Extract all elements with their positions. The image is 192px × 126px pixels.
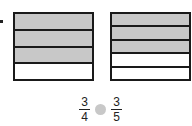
shaded-part [15, 48, 92, 65]
fraction-right: 3 5 [111, 96, 122, 123]
comparison-symbol-blank[interactable] [95, 104, 106, 115]
numerator: 3 [113, 96, 120, 108]
fraction-left: 3 4 [79, 96, 90, 123]
shaded-part [112, 41, 189, 54]
unshaded-part [15, 64, 92, 79]
bullet-dot [0, 20, 3, 23]
numerator: 3 [81, 96, 88, 108]
shaded-part [15, 14, 92, 31]
shaded-part [112, 14, 189, 27]
fraction-model-right [110, 12, 191, 81]
comparison-expression: 3 4 3 5 [79, 96, 122, 123]
shaded-part [112, 27, 189, 40]
denominator: 5 [113, 111, 120, 123]
denominator: 4 [81, 111, 88, 123]
unshaded-part [112, 68, 189, 79]
fraction-model-left [13, 12, 94, 81]
shaded-part [15, 31, 92, 48]
unshaded-part [112, 54, 189, 67]
